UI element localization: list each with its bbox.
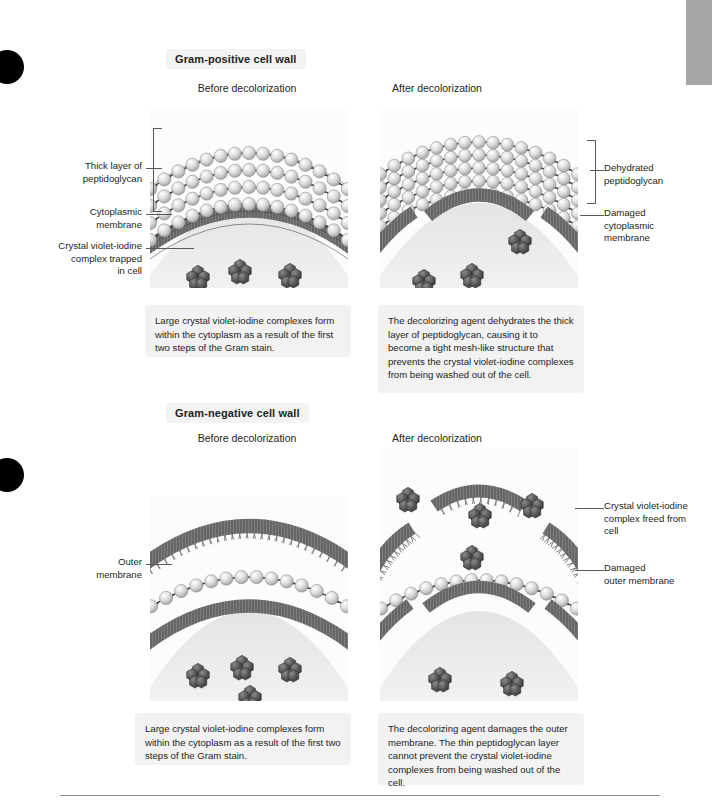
leader-damaged-outer-membrane xyxy=(575,570,604,571)
caption-gn-before: Large crystal violet-iodine complexes fo… xyxy=(135,713,351,765)
gn-before-svg xyxy=(150,496,348,701)
caption-gp-after: The decolorizing agent dehydrates the th… xyxy=(378,305,584,393)
label-damaged-cytoplasmic-membrane: Damaged cytoplasmic membrane xyxy=(604,207,704,245)
bullet-marker-1 xyxy=(0,50,24,84)
leader-cytoplasmic-membrane xyxy=(146,214,172,215)
figure-page: Gram-positive cell wall Before decoloriz… xyxy=(0,0,712,809)
leader-dehydrated-peptidoglycan xyxy=(590,170,604,171)
leader-damaged-cytoplasmic-membrane xyxy=(580,215,604,216)
gn-after-svg xyxy=(380,448,578,701)
gp-before-svg xyxy=(150,108,348,288)
gp-after-svg xyxy=(380,108,578,288)
section-title-gram-negative: Gram-negative cell wall xyxy=(166,403,309,423)
label-thick-peptidoglycan: Thick layer of peptidoglycan xyxy=(24,160,142,185)
label-outer-membrane: Outer membrane xyxy=(40,556,142,581)
bottom-divider xyxy=(60,795,660,796)
label-damaged-outer-membrane: Damaged outer membrane xyxy=(604,562,708,587)
illustration-gn-before xyxy=(150,496,348,701)
caption-gn-after: The decolorizing agent damages the outer… xyxy=(378,713,584,785)
leader-complex-trapped xyxy=(146,248,194,249)
bracket-thick-peptidoglycan xyxy=(153,128,162,212)
panel-heading-gn-after: After decolorization xyxy=(337,432,537,444)
label-complex-freed: Crystal violet-iodine complex freed from… xyxy=(604,500,708,538)
panel-heading-gn-before: Before decolorization xyxy=(147,432,347,444)
panel-heading-gp-before: Before decolorization xyxy=(147,82,347,94)
bullet-marker-2 xyxy=(0,458,24,492)
illustration-gp-after xyxy=(380,108,578,288)
bracket-dehydrated-peptidoglycan xyxy=(587,140,596,204)
section-title-gram-positive: Gram-positive cell wall xyxy=(166,49,306,69)
label-complex-trapped: Crystal violet-iodine complex trapped in… xyxy=(24,240,142,278)
panel-heading-gp-after: After decolorization xyxy=(337,82,537,94)
scrollbar[interactable] xyxy=(686,0,712,85)
illustration-gn-after xyxy=(380,448,578,701)
label-dehydrated-peptidoglycan: Dehydrated peptidoglycan xyxy=(604,162,704,187)
leader-outer-membrane xyxy=(146,564,172,565)
caption-gp-before: Large crystal violet-iodine complexes fo… xyxy=(145,305,351,357)
leader-complex-freed xyxy=(575,508,604,509)
illustration-gp-before xyxy=(150,108,348,288)
label-cytoplasmic-membrane: Cytoplasmic membrane xyxy=(40,206,142,231)
